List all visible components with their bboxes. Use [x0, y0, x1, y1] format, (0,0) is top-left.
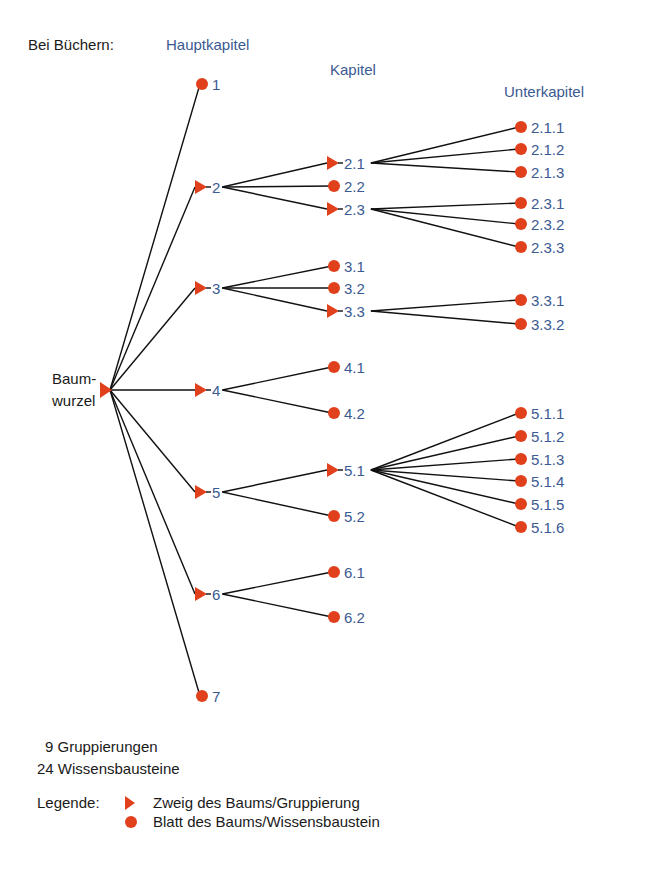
leaf-icon — [328, 510, 340, 522]
summary-blocks: 24 Wissensbausteine — [37, 760, 180, 777]
edge-3.3-3.3.1 — [371, 300, 519, 311]
node-label: 4 — [212, 382, 220, 399]
edge-root-3 — [110, 288, 195, 390]
edge-3-3.3 — [222, 288, 327, 311]
leaf-icon — [515, 121, 527, 133]
edge-6-6.1 — [222, 572, 332, 594]
leaf-icon — [328, 566, 340, 578]
leaf-icon — [328, 611, 340, 623]
branch-icon — [195, 383, 207, 397]
node-label: 3 — [212, 280, 220, 297]
node-label: 5.1.6 — [531, 519, 564, 536]
edge-2-2.2 — [222, 186, 332, 187]
node-label: 2.2 — [344, 178, 365, 195]
node-label: 5.1.4 — [531, 473, 564, 490]
column-heading-unterkapitel: Unterkapitel — [504, 83, 584, 100]
node-label: 1 — [212, 76, 220, 93]
edge-root-7 — [110, 390, 200, 696]
leaf-icon — [328, 361, 340, 373]
node-label: 5 — [212, 484, 220, 501]
node-label: 2.1.1 — [531, 119, 564, 136]
legend-branch-label: Zweig des Baums/Gruppierung — [153, 794, 360, 811]
leaf-icon — [515, 143, 527, 155]
edge-4-4.2 — [222, 390, 332, 413]
node-label: 3.2 — [344, 280, 365, 297]
node-label: 5.1.3 — [531, 451, 564, 468]
node-label: 7 — [212, 688, 220, 705]
leaf-icon — [515, 197, 527, 209]
edge-2.3-2.3.2 — [371, 209, 519, 224]
legend-leaf-label: Blatt des Baums/Wissensbaustein — [153, 813, 380, 830]
leaf-icon — [515, 430, 527, 442]
edge-3-3.1 — [222, 266, 332, 288]
branch-icon — [327, 304, 339, 318]
node-label: 2.3.3 — [531, 239, 564, 256]
branch-icon — [327, 202, 339, 216]
node-label: 4.1 — [344, 359, 365, 376]
node-label: 3.3 — [344, 303, 365, 320]
branch-icon — [195, 485, 207, 499]
edge-root-5 — [110, 390, 195, 492]
node-label: 5.1.1 — [531, 405, 564, 422]
leaf-icon — [515, 453, 527, 465]
edge-2.1-2.1.2 — [371, 149, 519, 163]
edge-root-1 — [110, 84, 200, 390]
leaf-icon — [196, 690, 208, 702]
node-label: 3.3.2 — [531, 316, 564, 333]
edge-3.3-3.3.2 — [371, 311, 519, 324]
node-label: 5.1.5 — [531, 496, 564, 513]
edge-6-6.2 — [222, 594, 332, 617]
leaf-icon — [515, 521, 527, 533]
edge-5-5.1 — [222, 470, 327, 492]
legend-branch-icon — [125, 796, 135, 810]
leaf-icon — [515, 498, 527, 510]
branch-icon — [195, 180, 207, 194]
branch-icon — [327, 156, 339, 170]
edge-5-5.2 — [222, 492, 332, 516]
tree-diagram: 122.12.22.32.1.12.1.22.1.32.3.12.3.22.3.… — [0, 0, 645, 874]
leaf-icon — [515, 241, 527, 253]
node-label: 6 — [212, 586, 220, 603]
node-label: 2.3 — [344, 201, 365, 218]
header-prefix: Bei Büchern: — [28, 36, 114, 53]
node-label: 6.1 — [344, 564, 365, 581]
tree-edges — [110, 84, 519, 696]
edge-2-2.1 — [222, 163, 327, 187]
edge-root-2 — [110, 187, 195, 390]
leaf-icon — [328, 407, 340, 419]
column-heading-hauptkapitel: Hauptkapitel — [166, 36, 249, 53]
node-label: 4.2 — [344, 405, 365, 422]
edge-2.3-2.3.1 — [371, 203, 519, 209]
legend-title: Legende: — [37, 794, 100, 811]
leaf-icon — [515, 294, 527, 306]
edge-4-4.1 — [222, 367, 332, 390]
leaf-icon — [328, 180, 340, 192]
node-label: 2 — [212, 179, 220, 196]
edge-root-6 — [110, 390, 195, 594]
node-label: 5.1.2 — [531, 428, 564, 445]
column-heading-kapitel: Kapitel — [330, 61, 376, 78]
root-label-line2: wurzel — [51, 392, 95, 409]
tree-nodes: 122.12.22.32.1.12.1.22.1.32.3.12.3.22.3.… — [195, 76, 564, 705]
node-label: 2.1.2 — [531, 141, 564, 158]
root-label-line1: Baum- — [52, 370, 96, 387]
branch-icon — [195, 281, 207, 295]
node-label: 2.3.1 — [531, 195, 564, 212]
node-label: 2.1 — [344, 155, 365, 172]
leaf-icon — [515, 166, 527, 178]
summary-groups: 9 Gruppierungen — [45, 738, 158, 755]
leaf-icon — [515, 318, 527, 330]
node-label: 3.1 — [344, 258, 365, 275]
node-label: 2.3.2 — [531, 216, 564, 233]
node-label: 5.2 — [344, 508, 365, 525]
root-branch-icon — [100, 382, 112, 398]
edge-2.1-2.1.1 — [371, 127, 519, 163]
edge-2.3-2.3.3 — [371, 209, 519, 247]
edge-2.1-2.1.3 — [371, 163, 519, 172]
edge-2-2.3 — [222, 187, 327, 209]
leaf-icon — [515, 407, 527, 419]
leaf-icon — [515, 475, 527, 487]
leaf-icon — [196, 78, 208, 90]
leaf-icon — [515, 218, 527, 230]
legend-leaf-icon — [125, 816, 137, 828]
